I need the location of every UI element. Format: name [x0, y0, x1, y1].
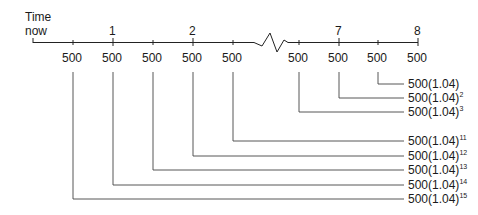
future-value-label: 500(1.04)15: [408, 193, 467, 205]
time-now-label-line1: Time: [25, 11, 51, 23]
payment-amount: 500: [102, 52, 122, 64]
future-value-label: 500(1.04)14: [408, 179, 467, 191]
future-value-label: 500(1.04)3: [408, 106, 463, 118]
compounding-brackets: [73, 72, 404, 199]
payment-amount: 500: [407, 52, 427, 64]
future-value-label: 500(1.04)2: [408, 92, 463, 104]
axis-break-zigzag-icon: [254, 33, 288, 52]
period-label: 8: [414, 25, 421, 37]
payment-amount: 500: [62, 52, 82, 64]
period-label: 7: [335, 25, 342, 37]
future-value-label: 500(1.04)13: [408, 164, 467, 176]
future-value-label: 500(1.04)12: [408, 150, 467, 162]
payment-amount: 500: [222, 52, 242, 64]
time-now-label-line2: now: [25, 25, 47, 37]
period-label: 1: [109, 25, 116, 37]
payment-amount: 500: [328, 52, 348, 64]
payment-amount: 500: [142, 52, 162, 64]
future-value-label: 500(1.04): [408, 78, 459, 90]
payment-amount: 500: [182, 52, 202, 64]
timeline-diagram: [0, 0, 478, 215]
payment-amount: 500: [288, 52, 308, 64]
payment-amount: 500: [367, 52, 387, 64]
future-value-label: 500(1.04)11: [408, 135, 467, 147]
period-label: 2: [189, 25, 196, 37]
